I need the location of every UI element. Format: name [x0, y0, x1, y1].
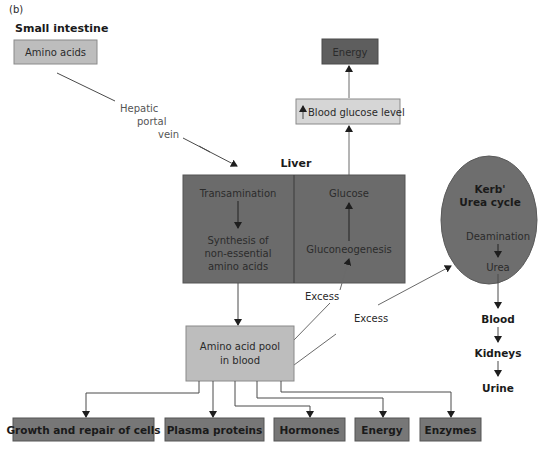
outcome-growth-label: Growth and repair of cells: [6, 424, 160, 436]
pool-label-1: Amino acid pool: [200, 341, 280, 352]
urine-label: Urine: [482, 382, 514, 394]
blood-glucose-label: Blood glucose level: [308, 107, 405, 118]
excess-label-2: Excess: [354, 313, 388, 324]
excess-label-1: Excess: [305, 291, 339, 302]
urea-cycle-title-2: Urea cycle: [459, 196, 521, 208]
branch-to-enzymes: [281, 381, 451, 417]
amino-acids-label: Amino acids: [25, 47, 86, 58]
dash-gap: [199, 146, 210, 152]
blood-label: Blood: [481, 313, 515, 325]
deamination-label: Deamination: [466, 231, 530, 242]
branch-to-growth: [86, 381, 199, 417]
energy-top-label: Energy: [332, 47, 367, 58]
hepatic-label-3: vein: [158, 129, 179, 140]
liver-heading: Liver: [281, 157, 312, 170]
kidneys-label: Kidneys: [475, 347, 522, 359]
amino-acid-pool-box: [186, 326, 294, 381]
outcome-plasma-label: Plasma proteins: [167, 424, 263, 436]
small-intestine-heading: Small intestine: [15, 22, 108, 35]
outcome-enzymes-label: Enzymes: [425, 424, 477, 436]
pool-label-2: in blood: [220, 355, 260, 366]
urea-cycle-title-1: Kerb': [475, 183, 506, 195]
branch-to-energy: [257, 381, 383, 417]
gluconeogenesis-label: Gluconeogenesis: [306, 244, 391, 255]
hepatic-portal-vein-line-a: [57, 73, 115, 101]
branch-to-hormones: [235, 381, 310, 417]
urea-label: Urea: [486, 262, 510, 273]
excess-line-1a: [294, 303, 330, 340]
outcome-energy-label: Energy: [361, 424, 402, 436]
synthesis-label-1: Synthesis of: [207, 235, 269, 246]
hepatic-label-2: portal: [137, 116, 166, 127]
synthesis-label-2: non-essential: [204, 248, 271, 259]
outcome-hormones-label: Hormones: [279, 424, 339, 436]
synthesis-label-3: amino acids: [208, 261, 268, 272]
figure-label: (b): [9, 4, 23, 15]
hepatic-label-1: Hepatic: [120, 103, 158, 114]
excess-line-2a: [294, 334, 336, 365]
glucose-label: Glucose: [329, 188, 369, 199]
amino-acid-metabolism-diagram: (b) Small intestine Amino acids Hepatic …: [0, 0, 557, 456]
transamination-label: Transamination: [199, 188, 277, 199]
